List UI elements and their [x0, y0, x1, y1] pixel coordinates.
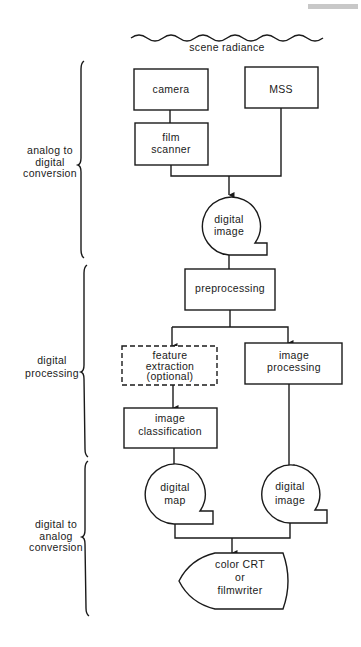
page-header-fragment	[308, 4, 358, 9]
node-label-line: processing	[267, 361, 321, 373]
node-label-line: preprocessing	[195, 282, 265, 294]
node-film-scanner: film scanner	[135, 123, 208, 165]
node-digital-image-1: digital image	[202, 197, 267, 255]
node-camera: camera	[134, 69, 208, 110]
edge-to-image-processing	[172, 327, 288, 343]
section-label-line: digital	[37, 354, 67, 366]
node-label-line: image	[155, 412, 185, 424]
node-label-line: digital	[214, 213, 244, 225]
node-image-classification: image classification	[124, 408, 217, 448]
flowchart-canvas: scene radiance analog to digital convers…	[0, 0, 361, 647]
section-label-line: conversion	[29, 541, 83, 553]
node-label-line: digital	[275, 480, 305, 492]
node-label-line: filmwriter	[218, 584, 263, 596]
node-digital-map: digital map	[145, 464, 213, 524]
node-preprocessing: preprocessing	[185, 269, 275, 310]
scene-radiance-label: scene radiance	[189, 41, 264, 53]
scene-radiance-input: scene radiance	[131, 35, 323, 53]
node-label-line: digital	[160, 481, 190, 493]
node-label-line: MSS	[269, 83, 293, 95]
section-brace-digital-processing: digital processing	[25, 265, 88, 457]
node-digital-image-2: digital image	[262, 465, 327, 523]
section-label-line: processing	[25, 367, 79, 379]
node-label-line: classification	[138, 425, 202, 437]
node-label-line: (optional)	[147, 370, 194, 382]
node-mss: MSS	[245, 67, 318, 108]
node-label-line: image	[214, 225, 244, 237]
node-label-line: camera	[153, 83, 190, 95]
node-feature-extraction: feature extraction (optional)	[122, 346, 217, 385]
node-label-line: image	[275, 494, 305, 506]
section-label-line: digital to	[35, 518, 77, 530]
node-output-display: color CRT or filmwriter	[179, 553, 288, 609]
node-label-line: or	[235, 571, 245, 583]
node-label-line: scanner	[151, 143, 191, 155]
node-label-line: image	[279, 349, 309, 361]
node-label-line: film	[162, 131, 180, 143]
edge-outputs-junction	[175, 523, 290, 538]
node-label-line: map	[164, 494, 185, 506]
section-brace-analog-to-digital: analog to digital conversion	[23, 61, 84, 258]
section-label-line: conversion	[23, 167, 77, 179]
node-image-processing: image processing	[245, 343, 342, 384]
node-label-line: color CRT	[215, 558, 265, 570]
section-brace-digital-to-analog: digital to analog conversion	[29, 461, 89, 616]
section-label-line: analog to	[27, 144, 73, 156]
